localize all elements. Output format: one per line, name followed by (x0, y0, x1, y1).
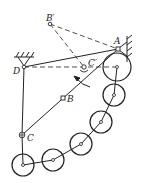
mechanism-diagram: A B C D B′ C′ (0, 0, 146, 183)
label-b: B (66, 94, 74, 104)
dashed-construction-lines (24, 24, 118, 67)
label-c: C (27, 133, 34, 143)
joint-c-prime (82, 65, 86, 69)
label-c-prime: C′ (88, 58, 97, 68)
label-d: D (12, 66, 20, 76)
label-b-prime: B′ (45, 13, 55, 23)
ground-support-a (119, 35, 132, 62)
wheel-chain-path (23, 67, 117, 165)
link-d-a (24, 49, 118, 67)
joint-d (22, 65, 26, 69)
joint-b (61, 96, 65, 100)
joints (19, 22, 120, 138)
label-a: A (113, 36, 121, 46)
joint-a (116, 47, 120, 51)
link-c-bottom-wheel (22, 135, 23, 165)
wheel-chain (12, 53, 131, 176)
link-d-c (22, 67, 24, 135)
ground-support-d (14, 52, 34, 66)
